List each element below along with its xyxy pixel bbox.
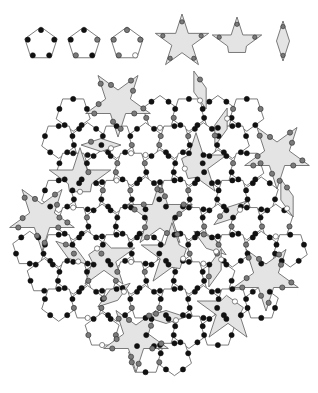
matching-dot-black	[57, 161, 62, 166]
matching-dot-black	[215, 288, 220, 293]
matching-dot-grey	[157, 142, 162, 147]
matching-dot-black	[94, 181, 99, 186]
matching-dot-grey	[110, 346, 115, 351]
matching-dot-black	[134, 289, 139, 294]
matching-dot-open	[133, 53, 138, 58]
matching-dot-grey	[266, 300, 271, 305]
matching-dot-grey	[86, 332, 91, 337]
matching-dot-black	[157, 288, 162, 293]
matching-dot-grey	[177, 211, 182, 216]
matching-dot-grey	[110, 119, 115, 124]
matching-dot-black	[48, 313, 53, 318]
matching-dot-black	[158, 296, 163, 301]
matching-dot-black	[215, 342, 220, 347]
matching-dot-open	[76, 259, 81, 264]
matching-dot-black	[216, 188, 221, 193]
matching-dot-black	[186, 314, 191, 319]
matching-dot-grey	[101, 296, 106, 301]
matching-dot-black	[207, 99, 212, 104]
matching-dot-grey	[100, 188, 105, 193]
matching-dot-grey	[199, 34, 203, 38]
star-prototile	[155, 14, 208, 65]
matching-dot-black	[186, 296, 191, 301]
matching-dot-black	[202, 278, 207, 283]
matching-dot-grey	[206, 274, 211, 279]
matching-dot-grey	[116, 53, 121, 58]
matching-dot-open	[121, 289, 126, 294]
matching-dot-open	[114, 178, 119, 183]
matching-dot-grey	[42, 240, 47, 245]
matching-dot-black	[151, 181, 156, 186]
matching-dot-black	[30, 53, 35, 58]
matching-dot-grey	[243, 242, 248, 247]
matching-dot-black	[113, 224, 118, 229]
prototile-row	[25, 14, 290, 65]
matching-dot-grey	[287, 224, 292, 229]
matching-dot-grey	[150, 346, 155, 351]
matching-dot-black	[192, 235, 197, 240]
matching-dot-black	[129, 251, 134, 256]
matching-dot-black	[122, 258, 127, 263]
matching-dot-grey	[258, 106, 263, 111]
matching-dot-black	[38, 27, 43, 32]
matching-dot-black	[192, 289, 197, 294]
matching-dot-black	[91, 262, 96, 267]
matching-dot-grey	[230, 161, 235, 166]
matching-dot-black	[90, 53, 95, 58]
matching-dot-grey	[115, 269, 120, 274]
matching-dot-grey	[84, 215, 89, 220]
matching-dot-grey	[71, 305, 76, 310]
matching-dot-black	[202, 170, 207, 175]
matching-dot-black	[108, 153, 113, 158]
matching-dot-grey	[201, 232, 206, 237]
matching-dot-black	[178, 177, 183, 182]
matching-dot-black	[108, 262, 113, 267]
matching-dot-grey	[157, 360, 162, 365]
penrose-figure	[0, 0, 318, 393]
matching-dot-grey	[128, 188, 133, 193]
matching-dot-grey	[108, 82, 113, 87]
matching-dot-black	[178, 285, 183, 290]
matching-dot-grey	[161, 34, 165, 38]
matching-dot-black	[192, 126, 197, 131]
matching-dot-black	[186, 205, 191, 210]
matching-dot-black	[173, 106, 178, 111]
matching-dot-open	[273, 234, 278, 239]
matching-dot-black	[62, 122, 67, 127]
matching-dot-black	[207, 153, 212, 158]
matching-dot-black	[230, 123, 235, 128]
matching-dot-grey	[175, 232, 180, 237]
matching-dot-grey	[130, 88, 135, 93]
matching-dot-grey	[246, 255, 251, 260]
matching-dot-open	[128, 151, 133, 156]
matching-dot-grey	[256, 256, 261, 261]
matching-dot-black	[230, 286, 235, 291]
matching-dot-black	[41, 251, 46, 256]
matching-dot-black	[215, 142, 220, 147]
matching-dot-black	[201, 315, 206, 320]
matching-dot-grey	[88, 139, 93, 144]
matching-dot-grey	[128, 354, 133, 359]
matching-dot-black	[77, 126, 82, 131]
matching-dot-black	[120, 231, 125, 236]
matching-dot-black	[84, 161, 89, 166]
matching-dot-black	[120, 177, 125, 182]
matching-dot-black	[55, 278, 60, 283]
matching-dot-black	[171, 332, 176, 337]
matching-dot-black	[171, 278, 176, 283]
matching-dot-black	[265, 208, 270, 213]
matching-dot-black	[224, 99, 229, 104]
matching-dot-grey	[115, 161, 120, 166]
matching-dot-grey	[281, 53, 285, 57]
matching-dot-black	[128, 296, 133, 301]
matching-dot-black	[134, 235, 139, 240]
matching-dot-black	[230, 232, 235, 237]
matching-dot-black	[215, 180, 220, 185]
matching-dot-black	[186, 351, 191, 356]
matching-dot-grey	[34, 233, 39, 238]
matching-dot-black	[207, 262, 212, 267]
matching-dot-grey	[32, 196, 37, 201]
matching-dot-black	[48, 204, 53, 209]
matching-dot-black	[28, 278, 33, 283]
matching-dot-black	[259, 261, 264, 266]
